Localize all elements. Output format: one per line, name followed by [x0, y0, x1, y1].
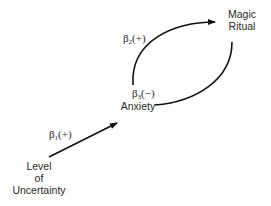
node-label: of: [4, 172, 74, 184]
node-label: Ritual: [224, 20, 260, 32]
node-anxiety: Anxiety: [118, 100, 158, 112]
coef-b3: β3(−): [132, 87, 155, 101]
node-label: Magic: [224, 8, 260, 20]
coef-b2: β2(+): [123, 32, 146, 46]
beta-sign: (+): [58, 128, 72, 140]
node-level-of-uncertainty: Level of Uncertainty: [4, 160, 74, 196]
beta-sign: (−): [141, 87, 155, 99]
beta-sign: (+): [132, 32, 146, 44]
node-label: Level: [4, 160, 74, 172]
node-label: Anxiety: [118, 100, 158, 112]
edge-b3-curve: [155, 42, 232, 105]
coef-b1: β1(+): [49, 128, 72, 142]
node-magic-ritual: Magic Ritual: [224, 8, 260, 32]
node-label: Uncertainty: [4, 184, 74, 196]
